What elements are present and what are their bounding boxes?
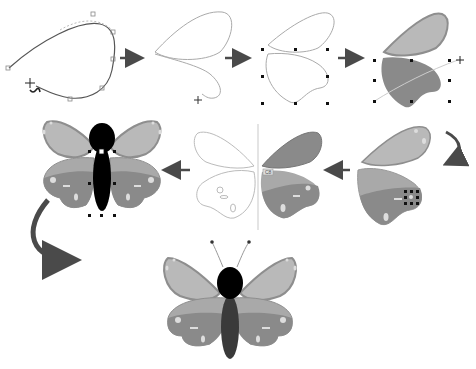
step-4-filled-wings — [373, 13, 464, 107]
step-6-mirror-wings: C8 — [194, 124, 321, 230]
step-7-butterfly-with-body — [43, 121, 162, 217]
pen-cursor-icon — [194, 96, 202, 104]
curved-arrow-step-7-to-8 — [33, 200, 72, 260]
step-2-wing-paths — [155, 12, 232, 104]
curved-arrow-step-4-to-5 — [446, 132, 459, 163]
step-8-finished-butterfly — [164, 240, 297, 359]
gradient-cursor-icon — [456, 56, 464, 64]
step-5-wings-with-spots — [358, 127, 431, 225]
diagram-canvas: C8 — [0, 0, 476, 369]
step-1-wing-outline — [6, 12, 115, 101]
selection-handles — [261, 48, 329, 105]
pen-cursor-icon — [25, 78, 40, 92]
snap-label: C8 — [265, 169, 272, 175]
step-3-selected-wings — [261, 13, 334, 105]
